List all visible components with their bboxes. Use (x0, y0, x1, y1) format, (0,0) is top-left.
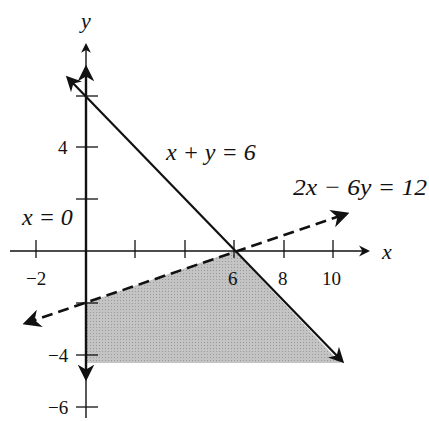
graph-figure: y x −2 6 8 10 4 −4 −6 x + y = 6 2x − 6y … (0, 0, 429, 421)
x-tick-label-8: 8 (278, 268, 288, 289)
x-axis-ticks (36, 240, 333, 258)
y-tick-label-4: 4 (58, 137, 68, 158)
y-tick-label-neg4: −4 (48, 345, 69, 366)
x-axis-label: x (381, 239, 392, 264)
label-x-plus-y-equals-6: x + y = 6 (165, 139, 256, 165)
y-tick-label-neg6: −6 (48, 397, 68, 418)
coordinate-plane: y x −2 6 8 10 4 −4 −6 x + y = 6 2x − 6y … (0, 0, 429, 421)
label-x-equals-0: x = 0 (21, 204, 73, 230)
y-axis-label: y (79, 8, 91, 33)
feasible-region (86, 251, 333, 355)
x-tick-label-neg2: −2 (26, 268, 46, 289)
x-tick-label-6: 6 (228, 268, 238, 289)
label-2x-minus-6y-equals-12: 2x − 6y = 12 (293, 174, 427, 200)
region-bottom-edge (86, 355, 333, 363)
x-tick-label-10: 10 (322, 268, 341, 289)
